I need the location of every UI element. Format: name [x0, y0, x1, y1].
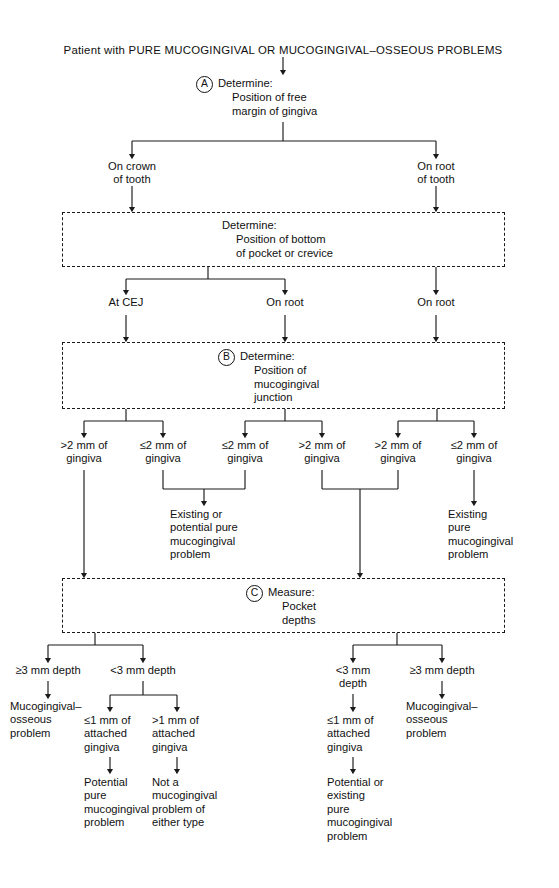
node-gingiva-4: >2 mm of gingiva	[299, 439, 346, 466]
node-on-root-middle: On root	[266, 296, 303, 309]
outcome-mucogingival-osseous-right: Mucogingival– osseous problem	[406, 700, 478, 740]
step-marker-b: B	[218, 349, 235, 366]
node-at-cej: At CEJ	[109, 296, 144, 309]
node-gingiva-2: ≤2 mm of gingiva	[140, 439, 187, 466]
node-on-crown-of-tooth: On crown of tooth	[108, 160, 156, 187]
outcome-not-a-problem: Not a mucogingival problem of either typ…	[152, 776, 217, 830]
node-on-root-right: On root	[417, 296, 454, 309]
flowchart-canvas: Patient with PURE MUCOGINGIVAL OR MUCOGI…	[0, 0, 559, 888]
outcome-existing-or-potential-pure: Existing or potential pure mucogingival …	[170, 508, 238, 562]
node-gingiva-6: ≤2 mm of gingiva	[451, 439, 498, 466]
outcome-existing-pure: Existing pure mucogingival problem	[448, 508, 513, 562]
node-on-root-of-tooth: On root of tooth	[417, 160, 454, 187]
node-depth-ge3-right: ≥3 mm depth	[409, 664, 474, 677]
outcome-potential-pure: Potential pure mucogingival problem	[84, 776, 149, 830]
step-a-detail: Position of free margin of gingiva	[232, 91, 317, 118]
node-depth-lt3-left: <3 mm depth	[110, 664, 176, 677]
outcome-mucogingival-osseous-left: Mucogingival– osseous problem	[10, 700, 82, 740]
node-attached-le1-right: ≤1 mm of attached gingiva	[327, 714, 374, 754]
step-c-label: Measure:	[268, 586, 315, 600]
node-depth-ge3-left: ≥3 mm depth	[15, 664, 80, 677]
outcome-potential-or-existing-pure: Potential or existing pure mucogingival …	[327, 776, 392, 843]
step-b-label: Determine:	[240, 350, 295, 364]
step-marker-a: A	[196, 76, 213, 93]
step-marker-c: C	[246, 585, 263, 602]
node-attached-le1-left: ≤1 mm of attached gingiva	[84, 714, 131, 754]
node-gingiva-3: ≤2 mm of gingiva	[222, 439, 269, 466]
step-c-detail: Pocket depths	[282, 600, 316, 627]
page-title: Patient with PURE MUCOGINGIVAL OR MUCOGI…	[64, 44, 503, 56]
node-gingiva-5: >2 mm of gingiva	[375, 439, 422, 466]
node-gingiva-1: >2 mm of gingiva	[61, 439, 108, 466]
step-b-detail: Position of mucogingival junction	[254, 364, 319, 405]
node-depth-lt3-right: <3 mm depth	[336, 664, 371, 691]
node-attached-gt1: >1 mm of attached gingiva	[152, 714, 199, 754]
pocket-box-label: Determine:	[222, 219, 277, 233]
step-a-label: Determine:	[218, 77, 273, 91]
pocket-box-detail: Position of bottom of pocket or crevice	[236, 233, 333, 260]
